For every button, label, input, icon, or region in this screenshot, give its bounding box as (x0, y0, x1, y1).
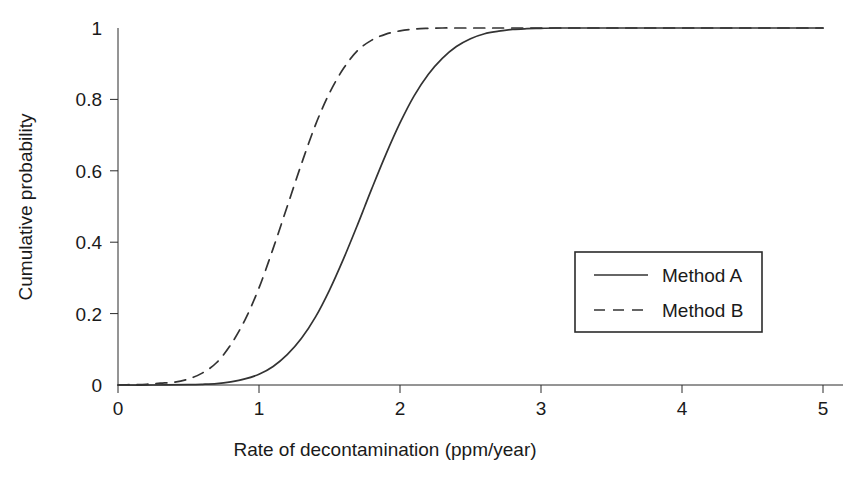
x-axis-title: Rate of decontamination (ppm/year) (233, 439, 536, 460)
y-tick-label: 1 (91, 18, 102, 39)
y-tick-label: 0.4 (76, 232, 103, 253)
y-axis-ticks: 00.20.40.60.81 (76, 18, 118, 396)
x-tick-label: 2 (395, 398, 406, 419)
x-tick-label: 0 (113, 398, 124, 419)
y-axis-title: Cumulative probability (15, 113, 36, 300)
x-tick-label: 3 (536, 398, 547, 419)
cropped-caption-artifact: ............. ........ ......... ..... (120, 0, 720, 3)
x-tick-label: 1 (254, 398, 265, 419)
chart-figure: ............. ........ ......... ..... 0… (0, 0, 851, 483)
y-tick-label: 0.2 (76, 304, 102, 325)
x-tick-label: 5 (818, 398, 829, 419)
y-tick-label: 0 (91, 375, 102, 396)
cumulative-probability-chart: 00.20.40.60.81 012345 Rate of decontamin… (0, 0, 851, 483)
legend-label-method-b: Method B (662, 300, 743, 321)
x-tick-label: 4 (677, 398, 688, 419)
y-tick-label: 0.8 (76, 89, 102, 110)
y-tick-label: 0.6 (76, 161, 102, 182)
legend-label-method-a: Method A (662, 265, 743, 286)
x-axis-ticks: 012345 (113, 385, 829, 419)
legend: Method A Method B (575, 252, 762, 332)
